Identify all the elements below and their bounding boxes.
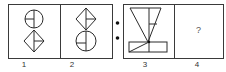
panel-1-figure: [24, 10, 44, 52]
panel-label-2: 2: [62, 60, 82, 69]
rectangle-shape: [129, 42, 167, 52]
panel-3-figure: [129, 8, 167, 52]
panel-2-figure: [76, 8, 96, 51]
panel-label-1: 1: [14, 60, 34, 69]
group-3-4-frame: [124, 5, 224, 59]
separator-dot: [116, 21, 120, 25]
panel-label-3: 3: [135, 60, 155, 69]
triangle-shape: [130, 8, 161, 42]
separator-dot: [116, 36, 120, 40]
panel-label-4: 4: [187, 60, 207, 69]
question-mark: ?: [196, 25, 201, 35]
